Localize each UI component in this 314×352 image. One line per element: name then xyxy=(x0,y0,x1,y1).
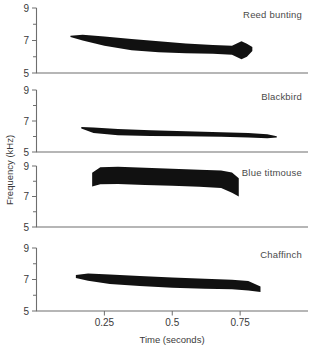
panel-1-ytick-label-7: 7 xyxy=(23,116,29,127)
panel-1-ytick-label-9: 9 xyxy=(23,85,29,96)
sonogram-svg: 579Reed bunting579Blackbird579Blue titmo… xyxy=(0,0,314,352)
xtick-label-0.5: 0.5 xyxy=(165,317,179,328)
panel-label-blue-titmouse: Blue titmouse xyxy=(242,167,302,178)
panel-3-ytick-label-7: 7 xyxy=(23,274,29,285)
panel-1-ytick-label-5: 5 xyxy=(23,147,29,158)
y-axis-title: Frequency (kHz) xyxy=(4,135,15,205)
xtick-label-0.25: 0.25 xyxy=(95,317,115,328)
panel-3-ytick-label-5: 5 xyxy=(23,306,29,317)
sonogram-trace-blackbird xyxy=(81,127,276,138)
panel-label-chaffinch: Chaffinch xyxy=(260,249,302,260)
panel-label-reed-bunting: Reed bunting xyxy=(243,9,302,20)
panel-0-ytick-label-5: 5 xyxy=(23,68,29,79)
xtick-label-0.75: 0.75 xyxy=(230,317,250,328)
sonogram-figure: 579Reed bunting579Blackbird579Blue titmo… xyxy=(0,0,314,352)
panel-2-ytick-label-5: 5 xyxy=(23,222,29,233)
x-axis-title: Time (seconds) xyxy=(139,334,204,345)
panel-3-ytick-label-9: 9 xyxy=(23,243,29,254)
sonogram-trace-chaffinch xyxy=(76,274,261,293)
panel-2-ytick-label-7: 7 xyxy=(23,191,29,202)
panel-0-ytick-label-7: 7 xyxy=(23,35,29,46)
panel-2-ytick-label-9: 9 xyxy=(23,161,29,172)
sonogram-trace-blue-titmouse xyxy=(92,167,239,197)
panel-label-blackbird: Blackbird xyxy=(261,91,302,102)
panel-0-ytick-label-9: 9 xyxy=(23,3,29,14)
sonogram-trace-reed-bunting xyxy=(70,35,252,59)
